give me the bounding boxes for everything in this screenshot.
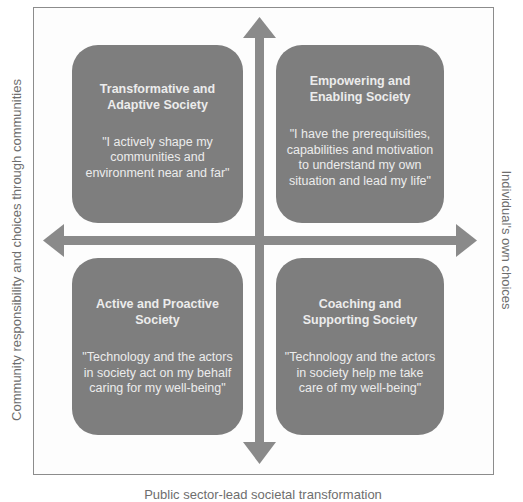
quote-line: "Technology and the actors bbox=[285, 350, 435, 366]
left-axis-label: Community responsibility and choices thr… bbox=[9, 79, 24, 421]
left-arrow-head bbox=[43, 224, 64, 257]
down-arrow-head bbox=[243, 442, 276, 464]
quote-line: capabilities and motivation bbox=[287, 143, 434, 159]
quadrant-title: Transformative and Adaptive Society bbox=[92, 81, 223, 113]
quadrant-quote: "Technology and the actors in society ac… bbox=[76, 350, 238, 397]
quote-line: environment near and far" bbox=[85, 166, 229, 182]
bottom-axis-label: Public sector-lead societal transformati… bbox=[144, 487, 382, 502]
quote-line: "I have the prerequisities, bbox=[287, 127, 434, 143]
right-arrow-head bbox=[456, 224, 477, 257]
quote-line: caring for my well-being" bbox=[82, 381, 232, 397]
quadrant-coaching-supporting: Coaching and Supporting Society "Technol… bbox=[276, 258, 444, 435]
title-line: Enabling Society bbox=[310, 89, 411, 105]
right-axis-label: Individual's own choices bbox=[499, 170, 514, 309]
quadrant-transformative-adaptive: Transformative and Adaptive Society "I a… bbox=[72, 45, 243, 223]
title-line: Society bbox=[96, 312, 219, 328]
up-arrow-head bbox=[243, 17, 276, 38]
title-line: Adaptive Society bbox=[100, 97, 215, 113]
title-line: Active and Proactive bbox=[96, 296, 219, 312]
quadrant-quote: "Technology and the actors in society he… bbox=[279, 350, 441, 397]
quadrant-title: Active and Proactive Society bbox=[88, 296, 227, 328]
horizontal-arrow-shaft bbox=[62, 236, 458, 245]
quote-line: "I actively shape my bbox=[85, 135, 229, 151]
quote-line: care of my well-being" bbox=[285, 381, 435, 397]
quote-line: situation and lead my life" bbox=[287, 174, 434, 190]
title-line: Transformative and bbox=[100, 81, 215, 97]
quote-line: in society help me take bbox=[285, 366, 435, 382]
quadrant-title: Empowering and Enabling Society bbox=[302, 73, 419, 105]
quote-line: in society act on my behalf bbox=[82, 366, 232, 382]
title-line: Supporting Society bbox=[303, 312, 418, 328]
quadrant-quote: "I actively shape my communities and env… bbox=[79, 135, 235, 182]
quadrant-active-proactive: Active and Proactive Society "Technology… bbox=[72, 258, 243, 435]
quote-line: to understand my own bbox=[287, 158, 434, 174]
quote-line: communities and bbox=[85, 150, 229, 166]
quadrant-title: Coaching and Supporting Society bbox=[295, 296, 426, 328]
quote-line: "Technology and the actors bbox=[82, 350, 232, 366]
title-line: Coaching and bbox=[303, 296, 418, 312]
quadrant-empowering-enabling: Empowering and Enabling Society "I have … bbox=[276, 45, 444, 223]
title-line: Empowering and bbox=[310, 73, 411, 89]
quadrant-quote: "I have the prerequisities, capabilities… bbox=[281, 127, 440, 189]
